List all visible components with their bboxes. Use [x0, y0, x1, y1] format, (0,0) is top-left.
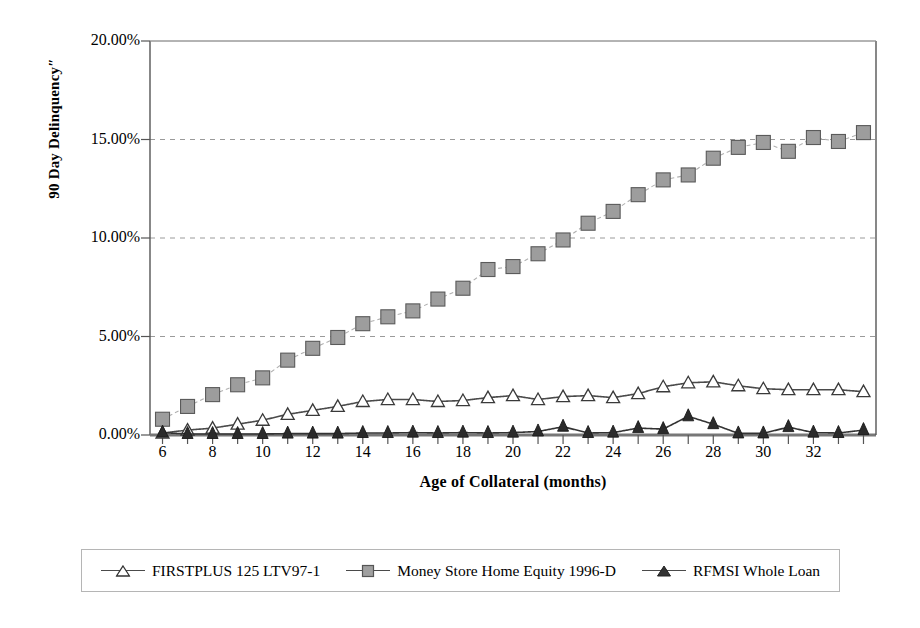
data-point [806, 131, 820, 145]
data-point [406, 304, 420, 318]
data-point [508, 425, 519, 437]
legend-item-firstplus[interactable]: FIRSTPLUS 125 LTV97-1 [101, 562, 320, 580]
data-point [683, 409, 694, 421]
data-point [381, 310, 395, 324]
data-point [356, 317, 370, 331]
data-point [858, 423, 869, 435]
data-point [256, 371, 270, 385]
legend-label-rfmsi: RFMSI Whole Loan [693, 562, 820, 580]
data-series-layer [156, 126, 871, 439]
data-point [482, 426, 493, 438]
data-point [783, 420, 794, 432]
x-tick-label: 24 [593, 443, 633, 461]
data-point [831, 134, 845, 148]
data-point [281, 353, 295, 367]
data-point [558, 419, 569, 431]
data-point [306, 341, 320, 355]
data-point [157, 425, 168, 437]
chart-legend: FIRSTPLUS 125 LTV97-1 Money Store Home E… [81, 549, 840, 592]
triangle-filled-marker-icon [642, 564, 686, 578]
data-point [382, 426, 393, 438]
legend-label-money-store: Money Store Home Equity 1996-D [397, 562, 616, 580]
legend-item-money-store[interactable]: Money Store Home Equity 1996-D [346, 562, 616, 580]
triangle-open-marker-icon [101, 564, 145, 578]
data-point [633, 421, 644, 433]
data-point [531, 247, 545, 261]
data-point [181, 399, 195, 413]
data-point [582, 389, 595, 401]
data-point [456, 281, 470, 295]
plot-area [0, 0, 920, 628]
data-point [231, 378, 245, 392]
data-point [731, 140, 745, 154]
data-point [631, 188, 645, 202]
data-point [606, 204, 620, 218]
x-tick-label: 32 [793, 443, 833, 461]
data-point [332, 426, 343, 438]
square-marker-icon [346, 564, 390, 578]
gridlines [150, 41, 876, 337]
data-point [656, 173, 670, 187]
x-tick-label: 30 [743, 443, 783, 461]
chart-container: 90 Day Delinquency″ 0.00%5.00%10.00%15.0… [0, 0, 920, 628]
x-tick-label: 6 [143, 443, 183, 461]
x-tick-label: 8 [193, 443, 233, 461]
data-point [581, 216, 595, 230]
x-tick-label: 20 [493, 443, 533, 461]
x-tick-label: 14 [343, 443, 383, 461]
data-point [407, 425, 418, 437]
data-point [257, 427, 268, 439]
data-point [457, 425, 468, 437]
legend-item-rfmsi[interactable]: RFMSI Whole Loan [642, 562, 820, 580]
data-point [856, 126, 870, 140]
x-tick-label: 10 [243, 443, 283, 461]
x-tick-label: 22 [543, 443, 583, 461]
x-axis-title: Age of Collateral (months) [150, 473, 876, 491]
data-point [206, 388, 220, 402]
data-point [481, 263, 495, 277]
x-tick-label: 26 [643, 443, 683, 461]
data-point [506, 260, 520, 274]
data-point [833, 426, 844, 438]
x-tick-label: 16 [393, 443, 433, 461]
data-point [781, 144, 795, 158]
x-tick-label: 28 [693, 443, 733, 461]
data-point [357, 426, 368, 438]
data-point [507, 389, 520, 401]
data-point [556, 233, 570, 247]
data-point [707, 375, 720, 387]
data-point [706, 151, 720, 165]
x-tick-label: 18 [443, 443, 483, 461]
data-point [282, 426, 293, 438]
data-point [756, 135, 770, 149]
legend-label-firstplus: FIRSTPLUS 125 LTV97-1 [152, 562, 320, 580]
data-point [331, 330, 345, 344]
data-point [307, 426, 318, 438]
x-tick-label: 12 [293, 443, 333, 461]
data-point [431, 292, 445, 306]
data-point [681, 168, 695, 182]
y-axis-ticks [141, 41, 150, 435]
data-point [432, 426, 443, 438]
